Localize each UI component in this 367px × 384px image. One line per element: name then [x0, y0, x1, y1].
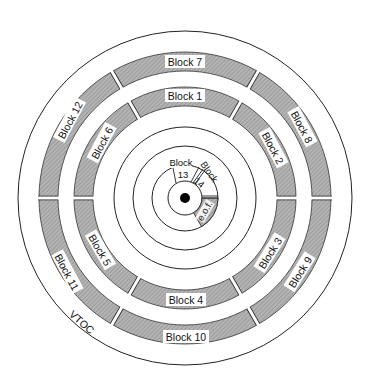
block-4-label: Block 4 [166, 293, 206, 306]
spindle-hole [180, 193, 190, 203]
svg-text:Block 1: Block 1 [168, 90, 203, 102]
svg-text:Block: Block [169, 157, 192, 168]
block-7-label: Block 7 [165, 55, 205, 68]
block-10-label: Block 10 [163, 330, 209, 343]
svg-text:Block 4: Block 4 [169, 294, 204, 306]
vtoc-label: VTOC [67, 308, 97, 337]
disk-layout-diagram: Block 7 Block 8 Block 9 Block 10 Block 1… [0, 0, 367, 384]
svg-text:13: 13 [178, 169, 189, 180]
svg-text:Block 7: Block 7 [168, 56, 203, 68]
block-1-label: Block 1 [165, 89, 205, 102]
block-14-label: Block 14 [192, 159, 221, 190]
svg-text:Block 10: Block 10 [166, 331, 206, 343]
svg-text:VTOC: VTOC [67, 308, 97, 337]
